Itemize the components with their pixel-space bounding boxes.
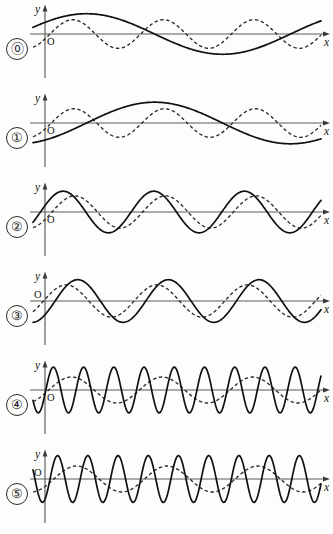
- row-index-badge: ①: [6, 127, 28, 149]
- row-plot: yxO: [28, 445, 333, 534]
- plot-canvas: yxO: [28, 445, 333, 534]
- y-axis-arrowhead: [43, 94, 48, 101]
- waveform-row: ③yxO: [0, 267, 333, 356]
- x-axis-label: x: [323, 36, 330, 48]
- y-axis-arrowhead: [43, 183, 48, 190]
- y-axis-label: y: [34, 448, 41, 461]
- origin-label: O: [47, 36, 55, 47]
- row-plot: yxO: [28, 267, 333, 356]
- y-axis-arrowhead: [43, 5, 48, 12]
- y-axis-arrowhead: [43, 272, 48, 279]
- x-axis-label: x: [323, 392, 330, 404]
- row-index-badge: ②: [6, 216, 28, 238]
- row-index-badge: ④: [6, 394, 28, 416]
- waveform-row: ⑤yxO: [0, 445, 333, 534]
- waveform-row: ①yxO: [0, 89, 333, 178]
- x-axis-label: x: [323, 214, 330, 226]
- row-index-badge: ⓪: [6, 38, 28, 60]
- waveform-figure: ⓪yxO①yxO②yxO③yxO④yxO⑤yxO: [0, 0, 333, 534]
- y-axis-label: y: [34, 92, 41, 105]
- origin-label: O: [47, 125, 55, 136]
- row-plot: yxO: [28, 356, 333, 445]
- plot-canvas: yxO: [28, 356, 333, 445]
- plot-canvas: yxO: [28, 267, 333, 356]
- y-axis-label: y: [34, 181, 41, 194]
- y-axis-label: y: [34, 3, 41, 16]
- x-axis-label: x: [323, 125, 330, 137]
- row-plot: yxO: [28, 178, 333, 267]
- x-axis-label: x: [323, 481, 330, 493]
- row-plot: yxO: [28, 89, 333, 178]
- origin-label: O: [34, 289, 42, 300]
- waveform-row: ⓪yxO: [0, 0, 333, 89]
- waveform-row: ②yxO: [0, 178, 333, 267]
- x-axis-label: x: [323, 303, 330, 315]
- row-index-badge: ⑤: [6, 483, 28, 505]
- plot-canvas: yxO: [28, 0, 333, 89]
- y-axis-label: y: [34, 359, 41, 372]
- row-index-badge: ③: [6, 305, 28, 327]
- y-axis-arrowhead: [43, 450, 48, 457]
- origin-label: O: [47, 214, 55, 225]
- plot-canvas: yxO: [28, 178, 333, 267]
- plot-canvas: yxO: [28, 89, 333, 178]
- waveform-row: ④yxO: [0, 356, 333, 445]
- origin-label: O: [34, 467, 42, 478]
- y-axis-arrowhead: [43, 361, 48, 368]
- row-plot: yxO: [28, 0, 333, 89]
- y-axis-label: y: [34, 270, 41, 283]
- origin-label: O: [47, 392, 55, 403]
